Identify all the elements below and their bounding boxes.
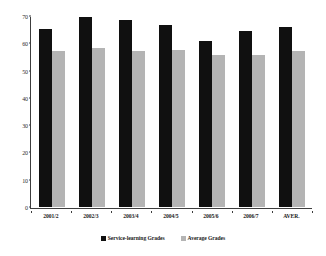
bar-average xyxy=(292,51,305,207)
x-axis-tick-label: 2001/2 xyxy=(43,211,58,219)
x-axis-tick-label: 2003/4 xyxy=(123,211,138,219)
x-axis-labels: 2001/22002/32003/42004/52005/62006/7AVER… xyxy=(31,211,312,223)
x-axis-tick-label: 2005/6 xyxy=(203,211,218,219)
bar-group xyxy=(199,17,225,207)
x-axis-tick-mark xyxy=(151,211,152,213)
legend-item: Average Grades xyxy=(181,235,226,241)
bar-group xyxy=(159,17,185,207)
x-axis-tick-mark xyxy=(312,211,313,213)
y-axis-tick-label: 60 xyxy=(22,41,31,47)
bar-average xyxy=(212,55,225,207)
bar-service-learning xyxy=(159,25,172,207)
bar-service-learning xyxy=(79,17,92,207)
bar-average xyxy=(252,55,265,207)
legend-item: Service-learning Grades xyxy=(101,235,165,241)
bar-group xyxy=(79,17,105,207)
bar-average xyxy=(132,51,145,207)
bar-service-learning xyxy=(39,29,52,207)
x-axis-tick-mark xyxy=(71,211,72,213)
legend-swatch-icon xyxy=(101,236,106,241)
legend-swatch-icon xyxy=(181,236,186,241)
y-axis-tick-label: 40 xyxy=(22,96,31,102)
x-axis-tick-label: AVER. xyxy=(283,211,299,219)
x-axis-tick-mark xyxy=(272,211,273,213)
x-axis-tick-label: 2002/3 xyxy=(83,211,98,219)
y-axis-tick-label: 30 xyxy=(22,123,31,129)
bar-group xyxy=(39,17,65,207)
bar-group xyxy=(279,17,305,207)
bar-service-learning xyxy=(199,41,212,207)
plot-area: 010203040506070 xyxy=(30,17,312,209)
x-axis-tick-mark xyxy=(111,211,112,213)
bar-service-learning xyxy=(279,27,292,208)
y-axis-tick-label: 20 xyxy=(22,150,31,156)
bar-average xyxy=(52,51,65,207)
bars-layer xyxy=(32,17,312,207)
x-axis-tick-mark xyxy=(232,211,233,213)
bar-average xyxy=(92,48,105,207)
bar-service-learning xyxy=(239,31,252,207)
bar-average xyxy=(172,50,185,207)
x-axis-tick-label: 2004/5 xyxy=(163,211,178,219)
chart-legend: Service-learning GradesAverage Grades xyxy=(0,235,326,241)
legend-label: Service-learning Grades xyxy=(108,235,165,241)
bar-group xyxy=(239,17,265,207)
x-axis-tick-mark xyxy=(192,211,193,213)
bar-group xyxy=(119,17,145,207)
y-axis-tick-label: 50 xyxy=(22,69,31,75)
x-axis-tick-mark xyxy=(31,211,32,213)
legend-label: Average Grades xyxy=(188,235,226,241)
x-axis-tick-label: 2006/7 xyxy=(243,211,258,219)
y-axis-tick-label: 70 xyxy=(22,14,31,20)
bar-chart-figure: 010203040506070 2001/22002/32003/42004/5… xyxy=(0,0,326,256)
bar-service-learning xyxy=(119,20,132,207)
y-axis-tick-label: 10 xyxy=(22,178,31,184)
